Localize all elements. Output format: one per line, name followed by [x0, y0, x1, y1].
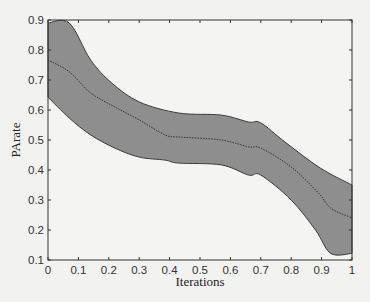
- chart: 00.10.20.30.40.50.60.70.80.91 0.10.20.30…: [0, 0, 370, 302]
- y-tick-label: 0.5: [28, 134, 44, 146]
- x-tick-label: 0.2: [101, 264, 117, 276]
- x-tick-label: 0.1: [70, 264, 86, 276]
- x-tick-label: 0.6: [222, 264, 238, 276]
- y-tick-label: 0.2: [28, 224, 44, 236]
- y-tick-label: 0.4: [28, 164, 45, 176]
- y-axis-title: PArate: [8, 122, 23, 157]
- y-tick-label: 0.8: [28, 44, 44, 56]
- x-tick-label: 0.7: [253, 264, 269, 276]
- x-tick-label: 0.8: [283, 264, 299, 276]
- x-tick-label: 0: [45, 264, 51, 276]
- y-tick-label: 0.7: [28, 74, 44, 86]
- x-tick-label: 0.3: [131, 264, 147, 276]
- x-axis-title: Iterations: [175, 274, 224, 289]
- y-tick-label: 0.1: [28, 254, 44, 266]
- y-tick-label: 0.3: [28, 194, 44, 206]
- y-tick-label: 0.9: [28, 14, 44, 26]
- x-tick-label: 0.9: [314, 264, 330, 276]
- x-tick-label: 1: [349, 264, 355, 276]
- y-tick-label: 0.6: [28, 104, 44, 116]
